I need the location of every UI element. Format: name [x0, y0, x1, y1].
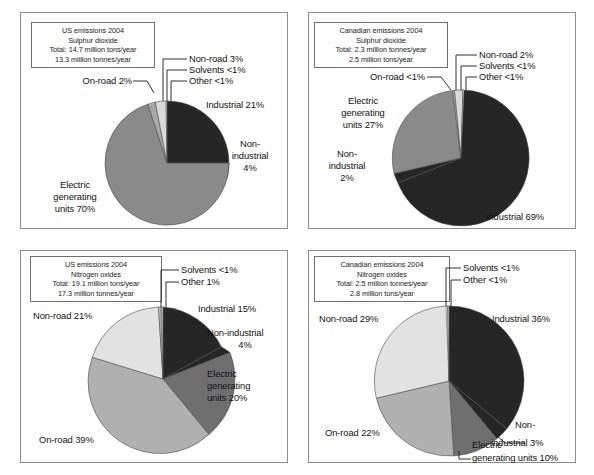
leader-line-on-road [427, 77, 451, 90]
slice-label-non-industrial-line3: 2% [315, 172, 379, 183]
slice-label-industrial: Industrial 21% [206, 99, 264, 110]
slice-label-non-road: Non-road 29% [319, 313, 378, 324]
slice-label-non-road: Non-road 21% [33, 310, 92, 321]
figure-grid: US emissions 2004 Sulphur dioxide Total:… [0, 0, 594, 475]
slice-label-non-industrial-line2: industrial [217, 150, 283, 161]
slice-label-electric-line3: units 27% [327, 119, 399, 130]
slice-label-non-road: Non-road 2% [479, 49, 533, 60]
slice-label-on-road: On-road <1% [337, 71, 425, 82]
slice-label-on-road: On-road 39% [39, 434, 94, 445]
chart-panel-canada-sulphur-dioxide: Canadian emissions 2004 Sulphur dioxide … [308, 12, 576, 229]
slice-label-electric-line1: Electric [207, 368, 237, 379]
slice-label-non-industrial-line1: Non-industrial [207, 327, 263, 338]
chart-panel-canada-nitrogen-oxides: Canadian emissions 2004 Nitrogen oxides … [308, 250, 576, 463]
slice-label-non-road: Non-road 3% [189, 53, 243, 64]
slice-label-non-industrial-line2: industrial [315, 160, 379, 171]
slice-label-solvents: Solvents <1% [463, 262, 519, 273]
slice-label-electric-line1: Electric [472, 439, 502, 450]
slice-label-electric-line2: generating [327, 107, 399, 118]
slice-label-non-industrial-line1: Non- [515, 419, 535, 430]
leader-line-other [166, 282, 179, 307]
slice-label-non-industrial-line1: Non- [315, 148, 379, 159]
slice-label-on-road: On-road 22% [325, 427, 380, 438]
slice-label-other: Other <1% [189, 75, 233, 86]
chart-panel-us-nitrogen-oxides: US emissions 2004 Nitrogen oxides Total:… [20, 250, 288, 463]
leader-line-other [466, 77, 477, 90]
leader-line-on-road [133, 81, 154, 93]
leader-line-other [451, 280, 461, 306]
leader-line-solvents [461, 66, 477, 90]
slice-label-other: Other 1% [181, 276, 220, 287]
leader-line-other [171, 81, 187, 101]
slice-label-electric-line1: Electric [39, 179, 111, 190]
slice-label-industrial: Industrial 36% [492, 313, 550, 324]
slice-label-solvents: Solvents <1% [479, 60, 535, 71]
slice-label-electric-line2: generating [207, 380, 250, 391]
slice-label-solvents: Solvents <1% [181, 264, 237, 275]
slice-label-industrial: Industrial 69% [486, 211, 544, 222]
leader-line-solvents [161, 270, 179, 307]
slice-label-industrial: Industrial 15% [198, 303, 256, 314]
slice-label-electric-line3: units 20% [207, 392, 247, 403]
slice-label-solvents: Solvents <1% [189, 64, 245, 75]
slice-label-non-industrial-line3: 4% [217, 162, 283, 173]
slice-label-electric-line2: generating units 10% [472, 452, 558, 463]
slice-label-electric-line1: Electric [327, 95, 399, 106]
pie-chart [21, 251, 289, 464]
leader-line-solvents [167, 70, 187, 101]
slice-label-non-industrial-line1: Non- [217, 138, 283, 149]
slice-label-electric-line2: generating [39, 191, 111, 202]
slice-label-on-road: On-road 2% [46, 75, 132, 86]
slice-label-non-industrial-line2: 4% [207, 339, 283, 350]
chart-panel-us-sulphur-dioxide: US emissions 2004 Sulphur dioxide Total:… [20, 12, 288, 229]
leader-line-solvents [446, 268, 461, 306]
leader-line-non-road [456, 55, 477, 90]
slice-label-electric-line3: units 70% [39, 203, 111, 214]
slice-label-other: Other <1% [463, 274, 507, 285]
slice-label-other: Other <1% [479, 71, 523, 82]
